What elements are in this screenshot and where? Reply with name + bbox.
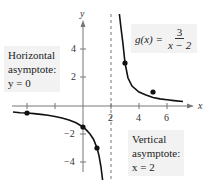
data-point [24, 110, 29, 115]
note-line: y = 0 [8, 76, 56, 90]
y-tick-label: −2 [64, 128, 75, 139]
y-axis-label: y [79, 8, 85, 19]
note-line: Vertical [132, 132, 180, 146]
data-point [150, 89, 155, 94]
x-tick-label: 6 [164, 112, 169, 123]
x-tick-label: 4 [136, 112, 141, 123]
y-tick-label: 4 [71, 43, 76, 54]
note-line: Horizontal [8, 48, 56, 62]
function-label: g(x) = 3 x − 2 [131, 24, 197, 53]
note-line: asymptote: [8, 62, 56, 76]
function-name: g(x) = [135, 33, 163, 45]
curve-left-branch [13, 112, 103, 180]
data-point [80, 124, 85, 129]
data-point [94, 145, 99, 150]
note-line: x = 2 [132, 160, 180, 174]
y-tick-label: 2 [71, 71, 76, 82]
horizontal-asymptote-note: Horizontal asymptote: y = 0 [4, 46, 60, 92]
note-line: asymptote: [132, 146, 180, 160]
x-axis-label: x [197, 100, 203, 111]
y-axis-arrow-icon [81, 20, 86, 27]
function-fraction: 3 x − 2 [166, 26, 193, 51]
y-tick-label: −4 [64, 156, 75, 167]
fraction-numerator: 3 [175, 26, 185, 39]
x-tick-label: 2 [108, 112, 113, 123]
fraction-denominator: x − 2 [166, 39, 193, 51]
x-axis-arrow-icon [187, 104, 194, 109]
data-point [122, 60, 127, 65]
vertical-asymptote-note: Vertical asymptote: x = 2 [128, 130, 184, 176]
